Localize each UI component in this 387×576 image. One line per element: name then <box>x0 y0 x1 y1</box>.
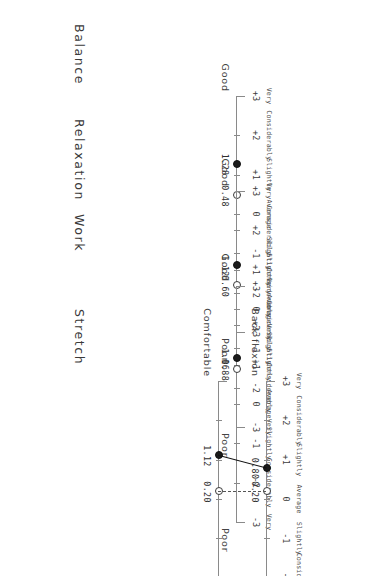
rotated-figure-wrapper: Balance+3Very+2Considerably+1Slightly0Av… <box>0 0 387 576</box>
axis-left-endpoint-label: Good <box>220 158 231 187</box>
axis-tick-word: Very <box>295 373 303 390</box>
axis-tick-word: Slightly <box>295 522 303 555</box>
axis-tick-number: +3 <box>281 376 291 386</box>
axis-tick-number: +3 <box>251 91 261 101</box>
axis-tick-word: Considerably <box>295 395 303 445</box>
axis-tick-word: Average <box>295 484 303 513</box>
panel-title: Balance <box>72 24 87 85</box>
data-point-value-label: 0.20 <box>202 481 212 503</box>
axis-tick-number: +1 <box>281 455 291 465</box>
axis-tick <box>236 96 245 97</box>
axis-tick-word: Very <box>265 88 273 105</box>
panel-relaxation: Relaxation+3Very+2Considerably+1Slightly… <box>0 113 387 208</box>
axis-tick-word: Very <box>265 278 273 295</box>
axis-tick <box>216 420 222 421</box>
axis-tick-number: 0 <box>281 496 291 501</box>
axis-tick <box>264 460 270 461</box>
axis-tick-number: +2 <box>281 415 291 425</box>
axis-tick-word: Considerably <box>295 553 303 576</box>
axis-tick <box>216 499 222 500</box>
axis-tick <box>236 191 245 192</box>
axis-left-endpoint-label: Good <box>220 253 231 282</box>
axis-tick-number: -1 <box>281 533 291 543</box>
data-point-value-label: 0.20 <box>250 481 260 503</box>
axis-left-endpoint-label: Back flexion <box>250 308 261 377</box>
axis-tick-number: -2 <box>281 573 291 576</box>
panel-stretch: Stretch+3Very+2Considerably+1Slightly0Av… <box>0 303 387 573</box>
figure-canvas: Balance+3Very+2Considerably+1Slightly0Av… <box>0 0 387 576</box>
axis-tick <box>236 286 245 287</box>
axis-tick <box>266 381 275 382</box>
axis-tick-word: Slightly <box>295 443 303 476</box>
axis-tick <box>218 381 227 382</box>
axis-left-endpoint-label: Good <box>220 63 231 92</box>
axis-tick <box>264 420 270 421</box>
axis-tick-number: +3 <box>251 186 261 196</box>
panel-title: Stretch <box>72 309 87 365</box>
open-point-connector-line <box>218 490 266 492</box>
axis-tick-number: +3 <box>251 281 261 291</box>
panel-title: Work <box>72 214 87 252</box>
axis-tick-word: Very <box>265 183 273 200</box>
axis-tick <box>216 538 222 539</box>
axis-tick <box>216 460 222 461</box>
axis-tick <box>264 499 270 500</box>
axis-left-endpoint-label: Comfortable <box>202 308 213 377</box>
panel-balance: Balance+3Very+2Considerably+1Slightly0Av… <box>0 18 387 113</box>
panel-work: Work+3Very+2Considerably+1Slightly0Avera… <box>0 208 387 303</box>
panel-title: Relaxation <box>72 119 87 201</box>
data-point-value-label: 1.12 <box>202 445 212 467</box>
axis-tick <box>264 538 270 539</box>
rating-axis <box>266 381 267 576</box>
data-point-value-label: 0.80 <box>250 458 260 480</box>
rating-axis <box>218 381 219 576</box>
